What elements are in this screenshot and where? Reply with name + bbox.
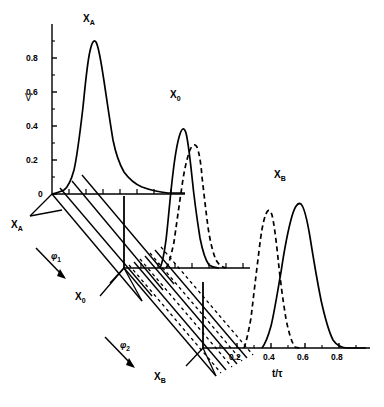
ytick-label-0.8: 0.8 (26, 53, 38, 63)
curve-label-xb: XB (274, 169, 286, 182)
diagram-arrow-label-2: φ2 (120, 340, 130, 352)
xtick-label-0.8: 0.8 (331, 352, 343, 362)
curve-label-x0: X0 (170, 89, 181, 102)
diagram-band-a-caps (30, 194, 142, 301)
ytick-label-0.2: 0.2 (26, 155, 38, 165)
curve-label-xb-text: X (274, 169, 281, 180)
diagram-label-xa-sub: A (18, 225, 23, 232)
curve-xb-solid (262, 204, 366, 349)
arrow-label-1-sub: 1 (57, 256, 61, 263)
arrow-label-2-sub: 2 (126, 345, 130, 352)
xtick-label-0.2: 0.2 (229, 352, 241, 362)
y-axis-label: V (25, 92, 32, 103)
curve-label-xb-sub: B (281, 175, 286, 182)
curve-label-xa-sub: A (90, 19, 95, 26)
diag-b-line-3 (145, 256, 237, 364)
curve-label-x0-sub: 0 (177, 95, 181, 102)
ytick-label-0.4: 0.4 (26, 121, 38, 131)
diag-a-line-3 (72, 181, 163, 290)
x-axis-label: t/τ (272, 368, 283, 379)
curve-label-xa-text: X (83, 13, 90, 24)
diagram-label-xb-text: X (154, 371, 161, 382)
curve-xb-dashed (244, 210, 303, 348)
curve-label-x0-text: X (170, 89, 177, 100)
xtick-label-0.6: 0.6 (297, 352, 309, 362)
diagram-label-xb: XB (154, 371, 166, 384)
diagram-label-x0-text: X (75, 291, 82, 302)
panel-xa-y-major-ticks (52, 58, 57, 194)
panel-xa (52, 24, 185, 194)
diag-b-line-1 (124, 268, 216, 376)
figure-root: 0 0.2 0.4 0.6 0.8 V 0.2 0.4 0.6 0.8 t/τ … (0, 0, 384, 407)
curve-xa-solid (52, 41, 185, 194)
diagram-label-xa: XA (11, 219, 23, 232)
diag-b-dash-2 (140, 259, 232, 367)
curve-label-xa: XA (83, 13, 95, 26)
diagram-label-xb-sub: B (161, 377, 166, 384)
diagram-label-x0-sub: 0 (82, 297, 86, 304)
diagram-label-x0: X0 (75, 291, 86, 304)
diag-b-line-2 (134, 262, 226, 370)
diag-b-line-4 (155, 250, 247, 358)
diag-b-dash-3 (150, 253, 242, 361)
chart-canvas (0, 0, 384, 407)
diagram-arrow-label-1: φ1 (51, 251, 61, 263)
diagram-label-xa-text: X (11, 219, 18, 230)
ytick-label-0: 0 (38, 189, 43, 199)
xtick-label-0.4: 0.4 (263, 352, 275, 362)
